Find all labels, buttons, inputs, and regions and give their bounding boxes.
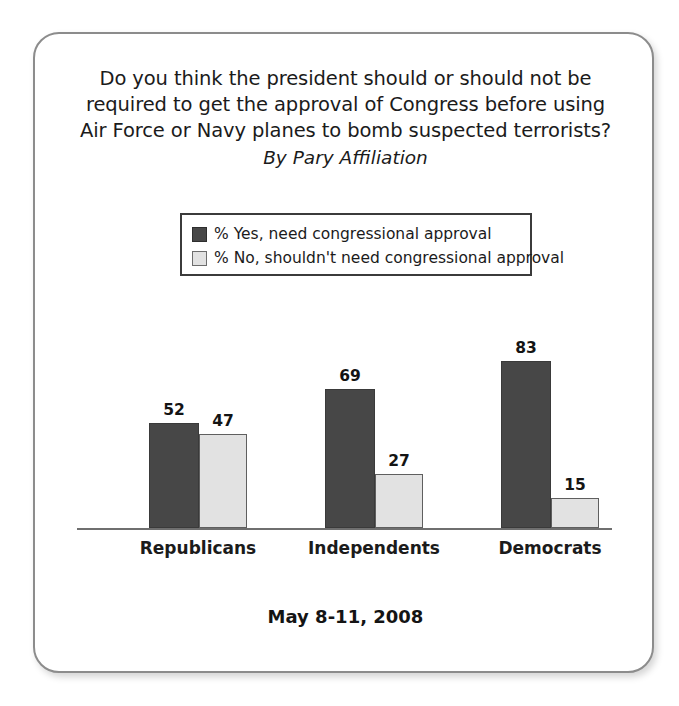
bar-independents-no — [375, 474, 423, 528]
bar-independents-yes — [325, 389, 375, 528]
bar-value-independents-yes: 69 — [325, 367, 375, 385]
category-label-republicans: Republicans — [119, 538, 277, 558]
bar-value-democrats-no: 15 — [551, 476, 599, 494]
plot-area: 5247Republicans6927Independents8315Democ… — [35, 34, 656, 675]
chart-card: Do you think the president should or sho… — [33, 32, 654, 673]
bar-value-republicans-yes: 52 — [149, 401, 199, 419]
x-axis-baseline — [77, 528, 612, 530]
bar-democrats-no — [551, 498, 599, 528]
bar-value-independents-no: 27 — [375, 452, 423, 470]
chart-footer-date: May 8-11, 2008 — [35, 606, 656, 627]
category-label-democrats: Democrats — [471, 538, 629, 558]
bar-republicans-no — [199, 434, 247, 528]
category-label-independents: Independents — [295, 538, 453, 558]
bar-republicans-yes — [149, 423, 199, 528]
bar-value-republicans-no: 47 — [199, 412, 247, 430]
bar-democrats-yes — [501, 361, 551, 528]
bar-value-democrats-yes: 83 — [501, 339, 551, 357]
